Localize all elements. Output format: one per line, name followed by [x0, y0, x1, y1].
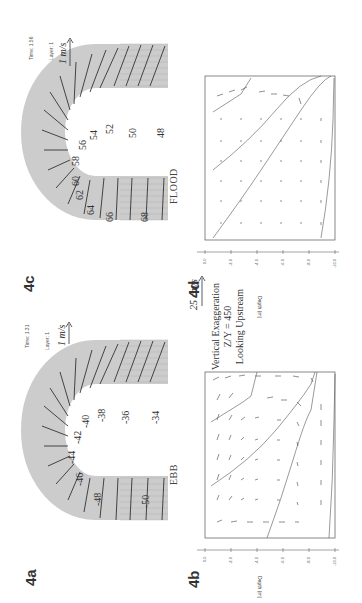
contour-label: 54: [88, 130, 99, 140]
layer-label-4c: Layer: 1: [48, 42, 54, 60]
panel-label-4a: 4a: [22, 569, 39, 586]
contour-label: -46: [74, 473, 85, 486]
contour-label: -42: [72, 431, 83, 444]
panel-4a: Time: 1.31 Layer: 1 1 m/s EBB -34 -36 -3…: [0, 300, 181, 603]
contour-label: 64: [85, 205, 96, 215]
panel-4c: 4c Time: 1.56 Layer: 1 1 m/s FLOOD 48 50…: [0, 0, 181, 300]
tick-label: -4.0: [254, 557, 259, 564]
panel-4d: 0.0 -2.0 -4.0 -6.0 -8.0 -10.0 Depth (m) …: [181, 0, 362, 300]
contour-label: -48: [92, 493, 103, 506]
contour-label: -40: [80, 415, 91, 428]
axis-title-4b: Depth (m): [257, 576, 263, 598]
tick-label: -2.0: [228, 557, 233, 564]
panel-label-4c: 4c: [20, 275, 37, 292]
contour-label: 66: [104, 212, 115, 222]
panel-4b: 0.0 -2.0 -4.0 -6.0 -8.0 -10.0 Depth (m) …: [181, 300, 362, 603]
time-label-4a: Time: 1.31: [24, 325, 30, 348]
contour-label: 68: [139, 212, 150, 222]
tick-label: -6.0: [280, 557, 285, 564]
tick-label: -4.0: [254, 259, 259, 266]
contour-label: 48: [155, 128, 166, 138]
contour-label: 56: [77, 140, 88, 150]
tick-label: 0.0: [202, 258, 207, 264]
contour-label: -34: [150, 411, 161, 424]
contour-label: 60: [70, 176, 81, 186]
tick-label: -6.0: [280, 259, 285, 266]
layer-label-4a: Layer: 1: [44, 332, 50, 350]
contour-label: 62: [74, 190, 85, 200]
tick-label: -10.0: [332, 259, 337, 268]
scale-arrow-4c: [67, 38, 77, 68]
tick-label: -8.0: [306, 557, 311, 564]
tick-label: -2.0: [228, 259, 233, 266]
tide-label-ebb: EBB: [168, 464, 179, 485]
tick-label: -10.0: [332, 557, 337, 566]
tick-label: 0.0: [202, 556, 207, 562]
contour-label: 52: [104, 124, 115, 134]
contour-label: -38: [96, 409, 107, 422]
contour-label: 58: [70, 156, 81, 166]
tick-label: -8.0: [306, 259, 311, 266]
time-label-4c: Time: 1.56: [28, 37, 34, 60]
contour-label: -50: [140, 495, 151, 508]
contour-label: -44: [66, 451, 77, 464]
tide-label-flood: FLOOD: [168, 168, 179, 204]
contour-label: -36: [120, 411, 131, 424]
panel-label-4b: 4b: [185, 570, 202, 588]
contour-label: 50: [127, 128, 138, 138]
panel-4d-section: [181, 0, 362, 300]
scale-arrow-4a: [66, 322, 76, 346]
